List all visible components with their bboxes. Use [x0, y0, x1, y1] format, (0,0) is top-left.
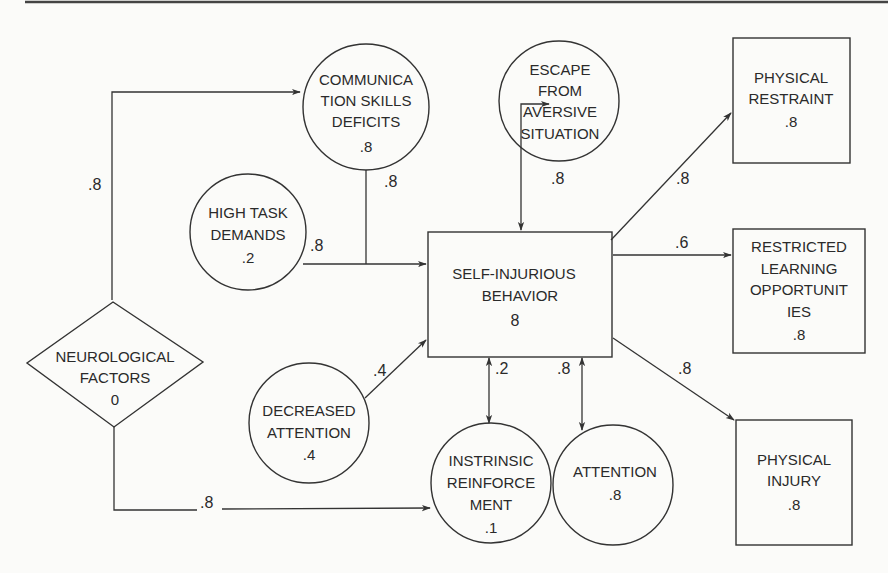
svg-text:BEHAVIOR: BEHAVIOR: [482, 287, 559, 304]
edge-label-sib-intrinsic: .2: [495, 360, 508, 377]
svg-text:HIGH TASK: HIGH TASK: [208, 204, 287, 221]
svg-text:RESTRAINT: RESTRAINT: [748, 90, 833, 107]
svg-text:.8: .8: [788, 496, 801, 513]
node-attention: ATTENTION .8: [553, 425, 673, 545]
svg-text:ATTENTION: ATTENTION: [573, 463, 657, 480]
svg-text:DEMANDS: DEMANDS: [210, 226, 285, 243]
edge-label-sib-escape: .8: [551, 170, 564, 187]
svg-text:ESCAPE: ESCAPE: [530, 61, 591, 78]
svg-text:.4: .4: [303, 446, 316, 463]
svg-text:RESTRICTED: RESTRICTED: [751, 238, 847, 255]
node-neurological-factors: NEUROLOGICAL FACTORS 0: [27, 302, 203, 427]
svg-text:SELF-INJURIOUS: SELF-INJURIOUS: [452, 265, 575, 282]
svg-text:COMMUNICA: COMMUNICA: [319, 71, 413, 88]
edge-neuro-to-communication: [112, 92, 300, 300]
node-intrinsic-reinforcement: INSTRINSIC REINFORCE MENT .1: [431, 423, 551, 543]
svg-text:.1: .1: [485, 519, 498, 536]
svg-text:ATTENTION: ATTENTION: [267, 424, 351, 441]
svg-text:SITUATION: SITUATION: [521, 125, 600, 142]
edge-label-sib-to-physical-injury: .8: [678, 360, 691, 377]
svg-text:AVERSIVE: AVERSIVE: [523, 103, 597, 120]
svg-text:FACTORS: FACTORS: [80, 369, 151, 386]
svg-text:IES: IES: [787, 303, 811, 320]
node-decreased-attention: DECREASED ATTENTION .4: [249, 363, 369, 483]
svg-text:PHYSICAL: PHYSICAL: [757, 451, 831, 468]
svg-text:PHYSICAL: PHYSICAL: [754, 69, 828, 86]
node-physical-restraint: PHYSICAL RESTRAINT .8: [733, 38, 850, 163]
edge-label-neuro-to-intrinsic: .8: [200, 494, 213, 511]
svg-text:.8: .8: [360, 138, 373, 155]
svg-text:.8: .8: [785, 113, 798, 130]
node-high-task-demands: HIGH TASK DEMANDS .2: [190, 174, 306, 290]
node-restricted-learning-opportunities: RESTRICTED LEARNING OPPORTUNIT IES .8: [733, 229, 865, 353]
svg-text:LEARNING: LEARNING: [761, 260, 838, 277]
node-physical-injury: PHYSICAL INJURY .8: [736, 420, 852, 545]
edge-sib-to-physical-injury: [613, 338, 734, 420]
edge-sib-to-physical-restraint: [611, 113, 731, 240]
svg-text:FROM: FROM: [538, 82, 582, 99]
svg-text:REINFORCE: REINFORCE: [447, 474, 535, 491]
edge-sib-escape: [521, 104, 549, 230]
svg-text:TION SKILLS: TION SKILLS: [321, 92, 412, 109]
node-escape-aversive-situation: ESCAPE FROM AVERSIVE SITUATION: [499, 41, 619, 161]
svg-text:8: 8: [511, 312, 520, 329]
edge-label-decreased-attention-to-sib: .4: [373, 362, 386, 379]
svg-text:0: 0: [111, 391, 119, 408]
svg-text:MENT: MENT: [470, 496, 513, 513]
svg-text:DEFICITS: DEFICITS: [332, 113, 400, 130]
path-diagram: .8 .8 .8 .4 .8 .8 .6 .8 .2 .8 .8 COMMUNI…: [0, 0, 888, 573]
edge-label-communication-to-sib: .8: [384, 173, 397, 190]
svg-text:DECREASED: DECREASED: [262, 402, 356, 419]
node-communication-skills-deficits: COMMUNICA TION SKILLS DEFICITS .8: [303, 44, 429, 170]
svg-text:.8: .8: [609, 486, 622, 503]
svg-text:INSTRINSIC: INSTRINSIC: [448, 452, 533, 469]
svg-text:NEUROLOGICAL: NEUROLOGICAL: [55, 348, 174, 365]
edge-label-high-task-to-sib: .8: [310, 237, 323, 254]
edge-label-sib-attention: .8: [557, 360, 570, 377]
edge-label-sib-to-restricted-learning: .6: [675, 234, 688, 251]
edge-label-neuro-to-communication: .8: [88, 176, 101, 193]
svg-text:INJURY: INJURY: [767, 472, 821, 489]
svg-text:OPPORTUNIT: OPPORTUNIT: [750, 281, 848, 298]
edge-label-sib-to-physical-restraint: .8: [676, 170, 689, 187]
svg-text:.2: .2: [242, 249, 255, 266]
svg-text:.8: .8: [793, 326, 806, 343]
node-self-injurious-behavior: SELF-INJURIOUS BEHAVIOR 8: [428, 232, 612, 357]
